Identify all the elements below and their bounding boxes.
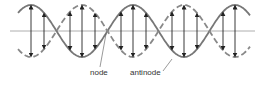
node-label: node [90,69,108,77]
antinode-label: antinode [130,69,161,77]
antinode-leader-line [163,59,172,71]
